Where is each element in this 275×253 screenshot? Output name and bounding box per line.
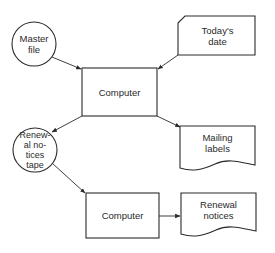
tape-line-1: Renew- [19,130,50,140]
mailing-line-1: Mailing [202,132,232,143]
todays-date-line-1: Today's [202,25,234,36]
tape-line-2: al no- [24,140,47,150]
master-file-label: Master file [12,31,56,57]
edge-date-to-computer1 [158,55,178,69]
notices-line-1: Renewal [200,199,237,210]
computer-2-text: Computer [102,210,144,221]
renewal-tape-label: Renew- al no- tices tape [13,128,57,172]
edge-computer1-to-labels [157,116,180,127]
todays-date-line-2: date [208,36,227,47]
renewal-notices-label: Renewal notices [181,196,256,224]
notices-line-2: notices [203,210,233,221]
master-file-line-1: Master [19,33,48,44]
computer-2-label: Computer [86,193,159,238]
tape-line-4: tape [26,160,44,170]
computer-1-label: Computer [82,68,157,116]
edge-master-to-computer1 [52,57,81,69]
mailing-labels-label: Mailing labels [180,129,255,157]
mailing-line-2: labels [205,143,230,154]
master-file-line-2: file [28,44,40,55]
todays-date-label: Today's date [180,21,255,51]
computer-1-text: Computer [99,87,141,98]
tape-line-3: tices [26,150,45,160]
